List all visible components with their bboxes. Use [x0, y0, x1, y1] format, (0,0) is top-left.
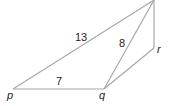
segment-q-top	[104, 0, 154, 89]
length-label-8: 8	[119, 37, 125, 49]
point-label-q: q	[99, 89, 106, 101]
point-label-p: p	[6, 89, 13, 101]
point-label-r: r	[157, 43, 162, 55]
length-label-7: 7	[56, 75, 62, 87]
geometry-diagram: 13 7 8 p q r	[0, 0, 169, 106]
segment-q-r	[104, 48, 154, 89]
length-label-13: 13	[75, 31, 87, 43]
segment-p-top	[13, 0, 154, 89]
